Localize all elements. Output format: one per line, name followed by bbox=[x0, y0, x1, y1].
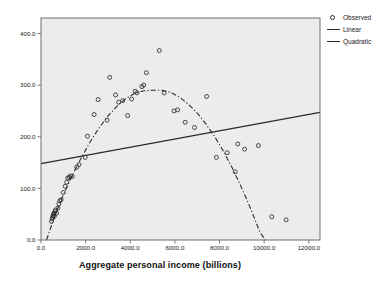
svg-text:6000.0: 6000.0 bbox=[165, 244, 184, 251]
svg-text:0.0: 0.0 bbox=[37, 244, 46, 251]
legend-label-linear: Linear bbox=[343, 25, 361, 34]
legend-item-quadratic[interactable]: Quadratic bbox=[327, 37, 385, 46]
legend-label-quadratic: Quadratic bbox=[343, 37, 371, 46]
svg-text:100.0: 100.0 bbox=[20, 185, 36, 192]
svg-text:200.0: 200.0 bbox=[20, 133, 36, 140]
legend-item-observed[interactable]: Observed bbox=[327, 13, 385, 22]
svg-text:10000.0: 10000.0 bbox=[253, 244, 276, 251]
chart-legend: Observed Linear Quadratic bbox=[327, 13, 385, 49]
svg-text:300.0: 300.0 bbox=[20, 81, 36, 88]
svg-text:0.0: 0.0 bbox=[27, 236, 36, 243]
svg-text:12000.0: 12000.0 bbox=[298, 244, 321, 251]
svg-text:4000.0: 4000.0 bbox=[121, 244, 140, 251]
quadratic-line-icon bbox=[327, 37, 340, 46]
svg-text:8000.0: 8000.0 bbox=[210, 244, 229, 251]
svg-text:2000.0: 2000.0 bbox=[76, 244, 95, 251]
observed-marker-icon bbox=[327, 13, 340, 22]
legend-label-observed: Observed bbox=[343, 13, 371, 22]
chart-container: 0.02000.04000.06000.08000.010000.012000.… bbox=[0, 0, 385, 286]
x-axis-title: Aggregate personal income (billions) bbox=[0, 260, 320, 270]
linear-line-icon bbox=[327, 25, 340, 34]
svg-text:400.0: 400.0 bbox=[20, 30, 36, 37]
plot-background bbox=[41, 18, 320, 240]
legend-item-linear[interactable]: Linear bbox=[327, 25, 385, 34]
